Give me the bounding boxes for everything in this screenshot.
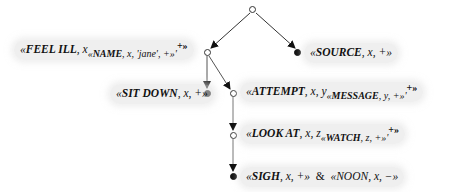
feel-ill-node: [204, 49, 211, 56]
look-at-node: [230, 132, 237, 139]
sigh-node: [230, 173, 237, 180]
sit-down-label: «SIT DOWN, x, +»: [110, 84, 214, 104]
edge-root-feelill: [211, 13, 250, 48]
sigh-label: «SIGH, x, +» & «NOON, x, −»: [240, 167, 404, 187]
attempt-node: [230, 90, 237, 97]
feel-ill-label: «FEEL ILL, x«NAME, x, 'jane', +»'+»: [14, 40, 194, 60]
edge-root-source: [256, 13, 295, 48]
source-node: [294, 49, 301, 56]
source-label: «SOURCE, x, +»: [304, 43, 398, 63]
attempt-label: «ATTEMPT, x, y«MESSAGE, y, +»'+»: [240, 82, 423, 102]
root-node: [249, 6, 256, 13]
edge-feelill-attempt: [209, 56, 230, 89]
look-at-label: «LOOK AT, x, z«WATCH, z, +»'+»: [240, 124, 405, 144]
